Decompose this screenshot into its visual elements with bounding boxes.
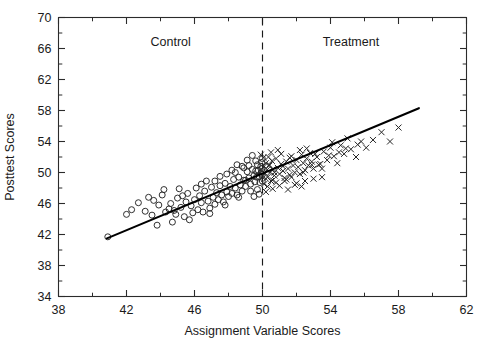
y-tick-label: 62 <box>38 73 52 87</box>
scatter-plot-svg: 38424650545862 34384246505458626670 Cont… <box>0 0 494 344</box>
data-point-control <box>202 188 208 194</box>
group-label: Control <box>151 35 191 49</box>
data-point-control <box>135 200 141 206</box>
data-point-treatment <box>304 145 310 151</box>
group-annotations: ControlTreatment <box>151 35 380 49</box>
data-point-control <box>149 212 155 218</box>
data-point-treatment <box>273 180 279 186</box>
data-point-control <box>205 198 211 204</box>
x-tick-label: 46 <box>188 303 202 317</box>
data-point-treatment <box>295 164 301 170</box>
data-point-control <box>209 184 215 190</box>
data-point-control <box>180 193 186 199</box>
data-point-control <box>129 207 135 213</box>
data-point-treatment <box>263 189 269 195</box>
data-point-treatment <box>341 151 347 157</box>
data-point-treatment <box>370 137 376 143</box>
data-point-control <box>198 181 204 187</box>
data-point-treatment <box>285 187 291 193</box>
data-point-control <box>169 219 175 225</box>
x-axis-title: Assignment Variable Scores <box>184 324 340 338</box>
y-tick-label: 34 <box>38 290 52 304</box>
data-point-treatment <box>396 125 402 131</box>
series-treatment-points <box>258 125 402 195</box>
x-tick-label: 54 <box>324 303 338 317</box>
y-tick-label: 54 <box>38 135 52 149</box>
data-point-treatment <box>275 147 281 153</box>
y-tick-label: 46 <box>38 197 52 211</box>
data-point-treatment <box>287 155 293 161</box>
data-point-treatment <box>336 149 342 155</box>
data-point-treatment <box>292 182 298 188</box>
y-tick-label: 42 <box>38 228 52 242</box>
data-point-treatment <box>363 145 369 151</box>
data-point-treatment <box>297 147 303 153</box>
y-axis-title: Posttest Scores <box>3 113 17 201</box>
data-point-control <box>249 152 255 158</box>
data-point-control <box>176 186 182 192</box>
x-tick-labels: 38424650545862 <box>52 303 474 317</box>
data-point-treatment <box>319 166 325 172</box>
x-tick-label: 58 <box>392 303 406 317</box>
data-point-treatment <box>379 129 385 135</box>
data-point-control <box>168 201 174 207</box>
data-point-control <box>246 163 252 169</box>
data-point-treatment <box>271 173 277 179</box>
data-point-control <box>173 211 179 217</box>
data-point-control <box>161 187 167 193</box>
x-tick-label: 42 <box>120 303 134 317</box>
data-point-control <box>200 209 206 215</box>
data-point-control <box>212 178 218 184</box>
data-point-treatment <box>319 174 325 180</box>
data-point-treatment <box>334 160 340 166</box>
data-point-control <box>193 185 199 191</box>
y-tick-label: 58 <box>38 104 52 118</box>
data-point-control <box>224 171 230 177</box>
series-control-points <box>105 152 266 239</box>
y-tick-labels: 34384246505458626670 <box>38 11 52 304</box>
data-point-treatment <box>311 176 317 182</box>
data-point-control <box>248 188 254 194</box>
data-point-treatment <box>353 154 359 160</box>
data-point-control <box>142 208 148 214</box>
data-point-treatment <box>387 139 393 145</box>
data-point-control <box>253 158 259 164</box>
data-point-treatment <box>326 152 332 158</box>
x-tick-label: 50 <box>256 303 270 317</box>
data-point-treatment <box>290 163 296 169</box>
y-tick-label: 38 <box>38 259 52 273</box>
data-point-control <box>124 211 130 217</box>
x-tick-label: 62 <box>460 303 474 317</box>
data-point-treatment <box>302 178 308 184</box>
group-label: Treatment <box>323 35 380 49</box>
data-point-control <box>186 217 192 223</box>
data-point-treatment <box>343 145 349 151</box>
y-tick-label: 50 <box>38 166 52 180</box>
data-point-treatment <box>355 142 361 148</box>
y-tick-label: 70 <box>38 11 52 25</box>
data-point-treatment <box>299 183 305 189</box>
chart-figure: 38424650545862 34384246505458626670 Cont… <box>0 0 494 344</box>
data-point-control <box>154 222 160 228</box>
data-point-treatment <box>324 157 330 163</box>
data-point-control <box>146 194 152 200</box>
y-tick-label: 66 <box>38 42 52 56</box>
x-tick-label: 38 <box>52 303 66 317</box>
data-point-treatment <box>338 142 344 148</box>
data-point-control <box>156 202 162 208</box>
data-point-control <box>217 173 223 179</box>
